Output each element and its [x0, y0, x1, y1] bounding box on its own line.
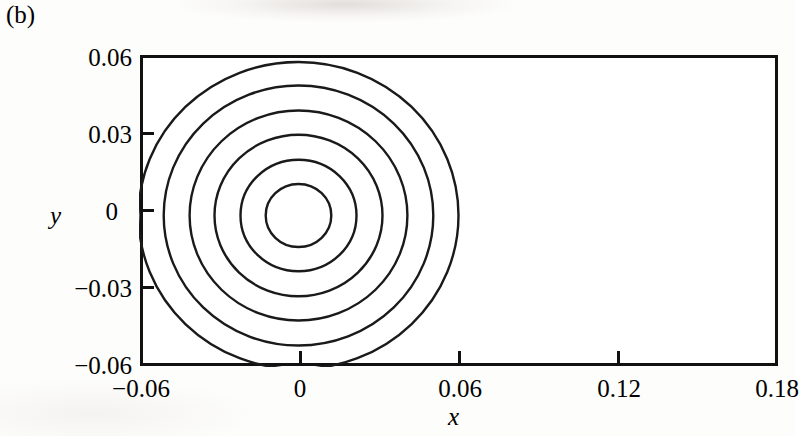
- y-axis-title: y: [50, 203, 61, 228]
- y-tick-label-1: 0.03: [0, 122, 132, 147]
- y-tick-label-3: −0.03: [0, 276, 132, 301]
- x-axis-title: x: [448, 404, 459, 429]
- x-tick-label-3: 0.12: [597, 376, 641, 401]
- y-tick-label-0: 0.06: [0, 45, 132, 70]
- x-tick-label-1: 0: [294, 376, 307, 401]
- x-tick-label-4: 0.18: [755, 376, 799, 401]
- x-tick-label-0: −0.06: [112, 376, 170, 401]
- y-tick-label-4: −0.06: [0, 353, 132, 378]
- x-tick-label-2: 0.06: [438, 376, 482, 401]
